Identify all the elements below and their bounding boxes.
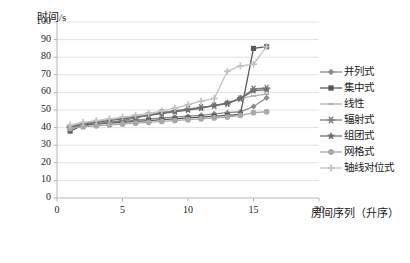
data-point-marker: [264, 93, 269, 95]
legend-marker-icon: [320, 129, 342, 143]
legend-item-label: 组团式: [344, 129, 374, 143]
legend-item-3[interactable]: 线性: [320, 96, 410, 112]
y-tick-label: 40: [27, 121, 51, 132]
legend-marker-icon: [320, 81, 342, 95]
y-tick-label: 50: [27, 103, 51, 114]
data-point-marker: [328, 103, 334, 105]
x-tick-label: 10: [176, 204, 200, 215]
data-point-marker: [159, 119, 165, 125]
legend-marker-icon: [320, 97, 342, 111]
data-point-marker: [264, 109, 270, 115]
data-point-marker: [224, 114, 230, 120]
y-tick-label: 10: [27, 173, 51, 184]
x-tick-label: 5: [111, 204, 135, 215]
data-point-marker: [328, 149, 334, 155]
data-point-marker: [107, 122, 113, 128]
data-point-marker: [211, 115, 217, 121]
data-point-marker: [327, 164, 334, 171]
data-point-marker: [146, 119, 152, 125]
data-point-marker: [328, 69, 334, 75]
x-tick-label: 0: [45, 204, 69, 215]
data-point-marker: [251, 110, 257, 116]
data-point-marker: [251, 46, 256, 51]
data-point-marker: [238, 112, 244, 118]
legend-item-5[interactable]: 组团式: [320, 128, 410, 144]
legend-item-1[interactable]: 并列式: [320, 64, 410, 80]
data-point-marker: [120, 121, 126, 127]
x-tick-label: 20: [307, 204, 331, 215]
chart-legend: 并列式集中式线性辐射式组团式网格式轴线对位式: [320, 64, 410, 176]
legend-item-label: 网格式: [344, 145, 374, 159]
line-chart: 时间/s 房间序列（升序） 0102030405060708090100 051…: [0, 0, 410, 263]
legend-item-label: 辐射式: [344, 113, 374, 127]
data-point-marker: [133, 120, 139, 126]
legend-marker-icon: [320, 65, 342, 79]
y-tick-label: 90: [27, 33, 51, 44]
legend-marker-icon: [320, 113, 342, 127]
y-tick-label: 100: [27, 15, 51, 26]
x-tick-label: 15: [242, 204, 266, 215]
data-point-marker: [251, 95, 256, 97]
y-tick-label: 60: [27, 85, 51, 96]
data-point-marker: [185, 117, 191, 123]
y-tick-label: 70: [27, 68, 51, 79]
data-point-marker: [172, 118, 178, 124]
legend-marker-icon: [320, 161, 342, 175]
legend-item-label: 线性: [344, 97, 364, 111]
data-point-marker: [327, 132, 335, 140]
data-point-marker: [198, 116, 204, 122]
legend-item-7[interactable]: 轴线对位式: [320, 160, 410, 176]
legend-item-label: 集中式: [344, 81, 374, 95]
data-point-marker: [327, 117, 335, 124]
y-tick-label: 20: [27, 156, 51, 167]
legend-item-6[interactable]: 网格式: [320, 144, 410, 160]
legend-item-label: 并列式: [344, 65, 374, 79]
y-tick-label: 30: [27, 138, 51, 149]
legend-item-label: 轴线对位式: [344, 161, 394, 175]
legend-item-2[interactable]: 集中式: [320, 80, 410, 96]
y-tick-label: 80: [27, 50, 51, 61]
data-point-marker: [328, 85, 333, 90]
legend-item-4[interactable]: 辐射式: [320, 112, 410, 128]
legend-marker-icon: [320, 145, 342, 159]
y-tick-label: 0: [27, 191, 51, 202]
